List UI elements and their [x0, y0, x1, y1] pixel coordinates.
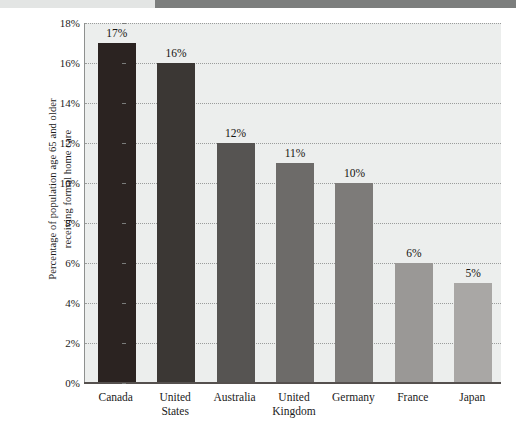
y-axis-tick-mark: [122, 263, 126, 264]
bar: 6%: [395, 263, 433, 383]
y-axis-tick-mark: [122, 103, 126, 104]
y-axis-tick-mark: [122, 223, 126, 224]
x-axis-tick-label-line: States: [139, 404, 211, 418]
bar-value-label: 16%: [148, 47, 204, 59]
bar-value-label: 5%: [445, 267, 501, 279]
gridline: [85, 143, 501, 144]
bar: 16%: [157, 63, 195, 383]
y-axis-tick-mark: [122, 63, 126, 64]
bar-value-label: 10%: [326, 167, 382, 179]
y-axis-tick-label: 6%: [46, 258, 80, 269]
y-axis-tick-mark: [122, 183, 126, 184]
bar-chart-figure: Percentage of population age 65 and olde…: [0, 0, 516, 437]
bar: 17%: [98, 43, 136, 383]
y-axis-tick-label: 18%: [46, 18, 80, 29]
y-axis-tick-label: 14%: [46, 98, 80, 109]
x-axis-line: [84, 382, 501, 384]
bar-value-label: 6%: [386, 247, 442, 259]
y-axis-tick-label: 16%: [46, 58, 80, 69]
x-axis-labels: CanadaUnitedStatesAustraliaUnitedKingdom…: [84, 390, 500, 432]
y-axis-tick-mark: [122, 343, 126, 344]
y-axis-tick-mark: [122, 303, 126, 304]
y-axis-tick-label: 10%: [46, 178, 80, 189]
bar: 5%: [454, 283, 492, 383]
gridline: [85, 23, 501, 24]
y-axis-tick-mark: [122, 23, 126, 24]
y-axis-tick-label: 4%: [46, 298, 80, 309]
bar-value-label: 17%: [89, 27, 145, 39]
bar-value-label: 11%: [267, 147, 323, 159]
y-axis-ticks: 0%2%4%6%8%10%12%14%16%18%: [40, 23, 80, 383]
x-axis-tick-label: Japan: [436, 390, 508, 404]
x-axis-tick-label-line: Kingdom: [258, 404, 330, 418]
y-axis-tick-label: 0%: [46, 378, 80, 389]
gridline: [85, 103, 501, 104]
y-axis-tick-label: 12%: [46, 138, 80, 149]
gridline: [85, 63, 501, 64]
bar: 10%: [335, 183, 373, 383]
bar-value-label: 12%: [208, 127, 264, 139]
y-axis-tick-label: 8%: [46, 218, 80, 229]
bar: 12%: [217, 143, 255, 383]
y-axis-tick-mark: [122, 383, 126, 384]
y-axis-tick-label: 2%: [46, 338, 80, 349]
x-axis-tick-label-line: Japan: [436, 390, 508, 404]
bar: 11%: [276, 163, 314, 383]
y-axis-tick-mark: [122, 143, 126, 144]
plot-area: 17%16%12%11%10%6%5%: [84, 23, 501, 383]
